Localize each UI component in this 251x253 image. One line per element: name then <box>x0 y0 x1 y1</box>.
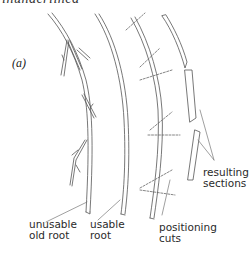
panel-label: (a) <box>12 56 26 71</box>
root-cuttings-illustration <box>0 0 251 253</box>
label-usable-root: usable root <box>90 219 125 241</box>
leader-lines <box>46 110 214 222</box>
resulting-sections-drawing <box>162 15 200 180</box>
root-cuttings-figure: inunderlined <box>0 0 251 253</box>
unusable-old-root-drawing <box>48 13 96 214</box>
label-unusable-old-root: unusable old root <box>29 219 77 241</box>
usable-root-drawing <box>95 14 129 215</box>
positioning-cuts-root-drawing <box>131 17 162 219</box>
label-resulting-sections: resulting sections <box>203 167 249 189</box>
label-positioning-cuts: positioning cuts <box>159 222 217 244</box>
